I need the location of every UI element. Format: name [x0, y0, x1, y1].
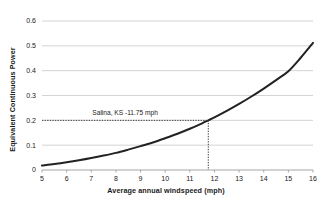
y-tick-label: 0.4: [26, 67, 36, 74]
y-tick-label: 0.6: [26, 17, 36, 24]
power-curve: [42, 43, 313, 166]
x-tick-label: 8: [114, 175, 118, 182]
chart-container: 00.10.20.30.40.50.6 5678910111213141516 …: [0, 0, 332, 204]
y-tick-label: 0.1: [26, 142, 36, 149]
x-tick-label: 5: [40, 175, 44, 182]
x-axis-tick-labels: 5678910111213141516: [40, 175, 317, 182]
x-tick-label: 6: [65, 175, 69, 182]
y-axis-tick-labels: 00.10.20.30.40.50.6: [26, 17, 36, 173]
annotation-label-salina: Salina, KS -11.75 mph: [92, 109, 158, 117]
x-tick-label: 13: [235, 175, 243, 182]
y-tick-label: 0.5: [26, 42, 36, 49]
y-tick-label: 0.2: [26, 117, 36, 124]
windspeed-power-chart: 00.10.20.30.40.50.6 5678910111213141516 …: [0, 0, 332, 204]
x-tick-label: 15: [284, 175, 292, 182]
x-axis-title: Average annual windspeed (mph): [0, 186, 332, 195]
x-tick-label: 9: [139, 175, 143, 182]
y-tick-label: 0: [32, 166, 36, 173]
x-tick-label: 7: [89, 175, 93, 182]
x-tick-label: 11: [186, 175, 193, 182]
y-tick-label: 0.3: [26, 92, 36, 99]
x-tick-label: 16: [309, 175, 317, 182]
y-axis-title: Equivalent Continuous Power: [8, 30, 17, 170]
x-tick-label: 10: [161, 175, 169, 182]
x-tick-label: 12: [211, 175, 219, 182]
x-tick-label: 14: [260, 175, 268, 182]
